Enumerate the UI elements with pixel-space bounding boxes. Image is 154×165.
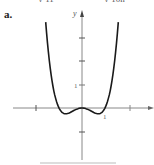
y-tick-label-1: 1 — [74, 82, 78, 90]
function-plot: y 1 1 — [0, 0, 154, 165]
y-axis-arrow-icon — [80, 10, 84, 17]
y-axis-label: y — [72, 9, 77, 18]
x-tick-label-1: 1 — [103, 113, 107, 121]
x-axis-arrow-icon — [148, 106, 154, 110]
